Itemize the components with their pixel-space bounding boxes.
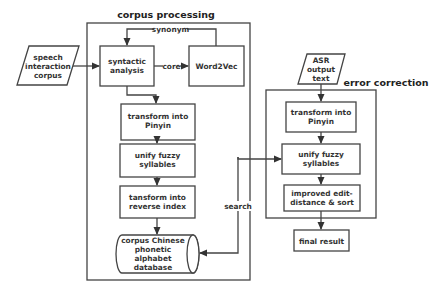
edit-distance-line-2: distance & sort (290, 198, 354, 207)
edge-label-synonym: synonym (152, 25, 190, 34)
node-cp-unify-fuzzy: unify fuzzy syllables (120, 144, 195, 177)
node-cp-transform-pinyin: transform into Pinyin (121, 104, 195, 140)
ec-transform-pinyin-line-2: Pinyin (308, 117, 334, 126)
cp-reverse-index-line-1: tansform into (129, 193, 186, 202)
node-ec-transform-pinyin: transform into Pinyin (286, 102, 356, 132)
edge-label-core: core (162, 62, 180, 71)
cp-transform-pinyin-line-1: transform into (128, 112, 188, 121)
database-line-3: alphabet (135, 254, 172, 263)
asr-line-2: output (307, 65, 335, 74)
final-result-label: final result (299, 237, 345, 246)
cp-reverse-index-line-2: reverse index (129, 202, 186, 211)
node-asr-text: ASR output text (298, 54, 345, 84)
node-edit-distance: improved edit- distance & sort (284, 185, 360, 211)
node-final-result: final result (294, 230, 349, 251)
node-ec-unify-fuzzy: unify fuzzy syllables (282, 144, 360, 174)
ec-unify-fuzzy-line-2: syllables (303, 159, 340, 168)
cp-unify-fuzzy-line-2: syllables (139, 160, 176, 169)
node-database: corpus Chinese phonetic alphabet databas… (116, 235, 199, 273)
word2vec-label: Word2Vec (196, 62, 238, 71)
cp-unify-fuzzy-line-1: unify fuzzy (135, 151, 181, 160)
asr-line-3: text (313, 74, 330, 83)
syntactic-analysis-line-1: syntactic (108, 57, 146, 66)
edge-syntactic-to-pinyin (127, 86, 156, 103)
ec-unify-fuzzy-line-1: unify fuzzy (298, 150, 344, 159)
node-speech-corpus: speech interaction corpus (17, 46, 79, 85)
edge-label-search: search (224, 202, 252, 211)
node-word2vec: Word2Vec (189, 46, 244, 86)
database-line-2: phonetic (135, 245, 171, 254)
cp-transform-pinyin-line-2: Pinyin (145, 121, 171, 130)
node-syntactic-analysis: syntactic analysis (100, 46, 154, 86)
speech-corpus-line-2: interaction (25, 62, 71, 71)
flowchart-diagram: corpus processing error correction speec… (0, 0, 429, 296)
error-correction-title: error correction (343, 77, 428, 88)
corpus-processing-title: corpus processing (117, 9, 215, 20)
database-line-1: corpus Chinese (121, 236, 185, 245)
speech-corpus-line-3: corpus (34, 71, 63, 80)
edge-synonym-left (127, 29, 154, 45)
speech-corpus-line-1: speech (33, 53, 62, 62)
edge-search-to-fuzzy (238, 157, 281, 159)
asr-line-1: ASR (313, 56, 330, 65)
syntactic-analysis-line-2: analysis (110, 66, 145, 75)
ec-transform-pinyin-line-1: transform into (291, 108, 351, 117)
edge-synonym-right (187, 29, 216, 46)
database-line-4: database (134, 263, 173, 272)
node-cp-reverse-index: tansform into reverse index (120, 186, 195, 218)
edit-distance-line-1: improved edit- (291, 189, 352, 198)
